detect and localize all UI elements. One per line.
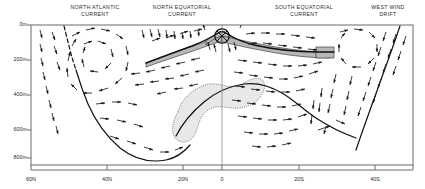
northern-boundary-curve-lower	[76, 70, 190, 161]
thermocline-interface-line	[146, 32, 334, 64]
cross-section-canvas	[0, 0, 425, 189]
ocean-cross-section-figure: NORTH ATLANTIC CURRENT NORTH EQUATORIAL …	[0, 0, 425, 189]
northern-boundary-curve	[64, 26, 76, 70]
